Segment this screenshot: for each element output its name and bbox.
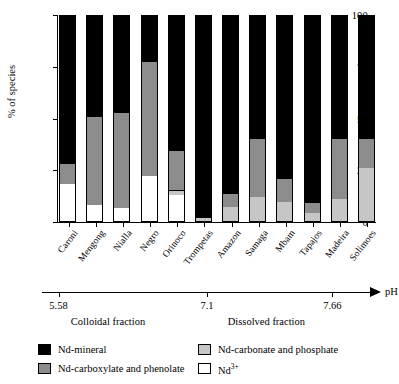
x-axis-category-label: Caroni <box>55 228 79 255</box>
y-axis-label: % of species <box>6 65 17 118</box>
x-axis-tick <box>177 222 178 227</box>
bar-samaga[interactable] <box>249 15 266 222</box>
x-axis-tick <box>204 222 205 227</box>
x-axis-tick <box>313 222 314 227</box>
bar-segment-mineral <box>196 16 211 218</box>
dark-gray-swatch <box>38 363 51 374</box>
ph-axis-label: pH <box>385 286 398 297</box>
bar-segment-carbox <box>169 150 184 190</box>
x-axis-tick <box>259 222 260 227</box>
x-axis-tick <box>340 222 341 227</box>
bar-segment-carbox <box>305 202 320 213</box>
bar-segment-mineral <box>277 16 292 178</box>
bar-segment-carbox <box>142 61 157 176</box>
x-axis-tick <box>367 222 368 227</box>
bar-segment-carbox <box>60 163 75 184</box>
x-axis-tick <box>69 222 70 227</box>
legend-item-label: Nd-carbonate and phosphate <box>218 344 338 355</box>
x-axis-category-label: Negro <box>138 228 161 253</box>
ph-axis-tick <box>59 292 60 297</box>
legend-item-label: Nd3+ <box>218 362 239 376</box>
bar-group <box>58 15 376 222</box>
x-axis-tick <box>96 222 97 227</box>
bar-segment-mineral <box>223 16 238 193</box>
bar-segment-mineral <box>87 16 102 116</box>
chart-legend: Nd-mineralNd-carbonate and phosphateNd-c… <box>38 340 378 378</box>
bar-segment-mineral <box>305 16 320 202</box>
legend-item: Nd-carbonate and phosphate <box>198 344 378 355</box>
bar-segment-free <box>169 195 184 221</box>
bar-segment-carbox <box>114 112 129 208</box>
ph-axis-arrow-icon <box>370 287 381 297</box>
x-axis-category-label: Mbam <box>273 228 296 254</box>
bar-negro[interactable] <box>141 15 158 222</box>
white-swatch <box>198 363 211 374</box>
legend-item-label: Nd-mineral <box>58 344 106 355</box>
x-axis-tick <box>286 222 287 227</box>
y-axis-tick <box>53 222 58 223</box>
ph-axis-tick-label: 5.58 <box>49 300 67 311</box>
bar-segment-free <box>142 176 157 221</box>
x-axis-category-label: Madeira <box>323 228 351 260</box>
x-axis-category-label: Mengong <box>76 228 107 263</box>
ph-axis-tick-label: 7.66 <box>323 300 341 311</box>
black-swatch <box>38 344 51 355</box>
x-axis-category-label: Tapajos <box>298 228 324 258</box>
bar-segment-carbphos <box>250 197 265 221</box>
x-axis-tick <box>150 222 151 227</box>
bar-segment-carbox <box>87 116 102 205</box>
bar-segment-carbphos <box>223 207 238 221</box>
x-axis-tick <box>232 222 233 227</box>
bar-segment-carbphos <box>277 202 292 221</box>
bar-orinoco[interactable] <box>168 15 185 222</box>
ph-axis-tick-label: 7.1 <box>200 300 213 311</box>
legend-item: Nd-mineral <box>38 344 198 355</box>
bar-segment-carbox <box>277 178 292 201</box>
bar-amazon[interactable] <box>222 15 239 222</box>
legend-item: Nd3+ <box>198 362 378 376</box>
bar-segment-mineral <box>169 16 184 150</box>
bar-segment-mineral <box>142 16 157 61</box>
legend-item: Nd-carboxylate and phenolate <box>38 363 198 374</box>
plot-area: 0255075100 <box>57 15 376 223</box>
fraction-label: Colloidal fraction <box>71 316 145 327</box>
x-axis-category-labels: CaroniMengongNiallaNegroOrinocoTrompetas… <box>57 228 375 286</box>
bar-mbam[interactable] <box>276 15 293 222</box>
bar-caroni[interactable] <box>59 15 76 222</box>
bar-segment-carbox <box>332 138 347 198</box>
bar-segment-free <box>87 205 102 221</box>
bar-segment-free <box>60 184 75 221</box>
light-gray-swatch <box>198 344 211 355</box>
bar-segment-carbox <box>359 138 374 168</box>
bar-segment-carbphos <box>359 168 374 221</box>
bar-segment-carbphos <box>305 213 320 221</box>
bar-segment-carbox <box>250 138 265 196</box>
chart-figure: % of species 0255075100 CaroniMengongNia… <box>0 0 399 384</box>
x-axis-category-label: Solimoes <box>348 228 378 263</box>
bar-nialla[interactable] <box>113 15 130 222</box>
legend-item-label: Nd-carboxylate and phenolate <box>58 363 185 374</box>
bar-segment-carbphos <box>332 199 347 221</box>
bar-madeira[interactable] <box>331 15 348 222</box>
bar-segment-mineral <box>359 16 374 138</box>
bar-trompetas[interactable] <box>195 15 212 222</box>
bar-segment-mineral <box>250 16 265 138</box>
x-axis-category-label: Nialla <box>111 228 134 253</box>
bar-mengong[interactable] <box>86 15 103 222</box>
fraction-label: Dissolved fraction <box>228 316 305 327</box>
ph-axis-tick <box>332 292 333 297</box>
bar-tapajos[interactable] <box>304 15 321 222</box>
x-axis-category-label: Amazon <box>214 228 242 260</box>
bar-segment-mineral <box>332 16 347 138</box>
x-axis-tick <box>123 222 124 227</box>
bar-solimoes[interactable] <box>358 15 375 222</box>
bar-segment-free <box>114 208 129 221</box>
bar-segment-mineral <box>60 16 75 163</box>
bar-segment-mineral <box>114 16 129 112</box>
x-axis-category-label: Orinoco <box>161 228 188 259</box>
bar-segment-carbox <box>223 193 238 206</box>
bar-segment-carbphos <box>196 218 211 221</box>
ph-axis-tick <box>207 292 208 297</box>
x-axis-category-label: Samaga <box>243 228 270 258</box>
